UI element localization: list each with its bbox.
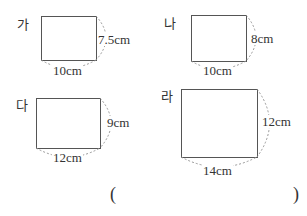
width-na: 10cm <box>202 64 233 77</box>
width-da: 12cm <box>52 151 83 164</box>
width-ga: 10cm <box>52 64 83 77</box>
rectangle-na <box>192 16 247 62</box>
figure-label-da: 다 <box>16 95 28 114</box>
rectangle-ga <box>42 17 97 61</box>
answer-close-paren: ) <box>293 184 299 205</box>
figure-label-na: 나 <box>164 13 176 32</box>
answer-open-paren: ( <box>110 184 116 205</box>
figure-label-ga: 가 <box>17 14 29 33</box>
rectangle-da <box>37 99 101 149</box>
answer-blank[interactable] <box>122 186 292 204</box>
height-da: 9cm <box>106 116 130 129</box>
width-ra: 14cm <box>202 164 233 177</box>
height-na: 8cm <box>250 32 274 45</box>
height-ra: 12cm <box>261 115 292 128</box>
height-ga: 7.5cm <box>97 33 131 46</box>
rectangle-ra <box>182 90 258 158</box>
figure-label-ra: 라 <box>161 86 173 105</box>
